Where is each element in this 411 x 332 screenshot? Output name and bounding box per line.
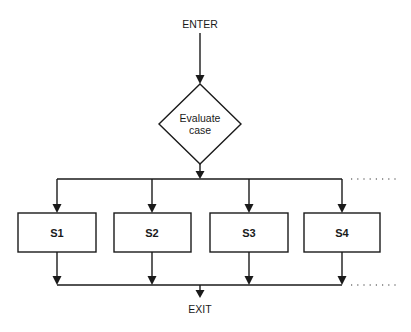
enter-label: ENTER <box>182 18 218 30</box>
branch-s3-label: S3 <box>242 227 255 239</box>
branch-s4: S4 <box>304 179 380 285</box>
exit-label: EXIT <box>188 303 212 315</box>
branch-s1-in-arrowhead <box>53 204 62 213</box>
case-flowchart: ENTER Evaluate case S1 S2 S3 <box>0 0 411 332</box>
branch-s1-out-arrowhead <box>53 276 62 285</box>
branch-s4-in-arrowhead <box>338 204 347 213</box>
branch-s1-label: S1 <box>50 227 63 239</box>
branch-s2-out-arrowhead <box>148 276 157 285</box>
branch-s3: S3 <box>210 179 288 285</box>
branch-s3-in-arrowhead <box>245 204 254 213</box>
branch-s4-out-arrowhead <box>338 276 347 285</box>
branch-s2: S2 <box>114 179 191 285</box>
branch-s2-label: S2 <box>145 227 158 239</box>
branch-s3-out-arrowhead <box>245 276 254 285</box>
decision-out-arrowhead <box>196 171 205 179</box>
branch-s1: S1 <box>18 179 96 285</box>
decision-label-line1: Evaluate <box>180 112 221 124</box>
exit-arrowhead <box>196 290 205 298</box>
enter-arrowhead <box>196 75 205 84</box>
decision-label-line2: case <box>189 124 211 136</box>
branch-s2-in-arrowhead <box>148 204 157 213</box>
branch-s4-label: S4 <box>335 227 349 239</box>
